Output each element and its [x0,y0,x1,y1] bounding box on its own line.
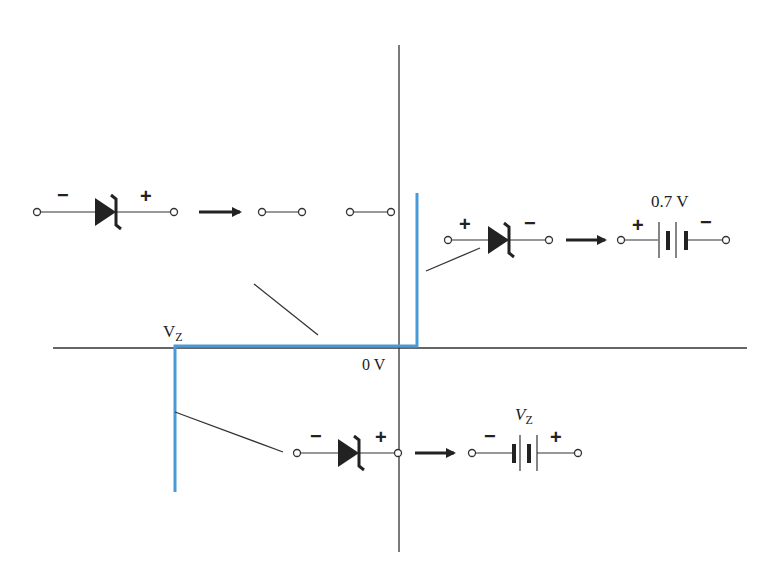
leader-zener-region [175,412,283,452]
minus-sign: − [310,425,322,447]
minus-sign: − [484,425,496,447]
plus-sign: + [459,213,471,235]
zener-characteristic-diagram: VZ 0 V − + [0,0,777,586]
plus-sign: + [375,426,387,448]
minus-sign: − [524,212,536,234]
battery-voltage-label: 0.7 V [651,192,689,211]
minus-sign: − [700,211,712,233]
leader-off-region [254,284,318,335]
zener-diode-symbol [34,195,178,229]
plus-sign: + [550,426,562,448]
plus-sign: + [632,214,644,236]
vz-axis-label: VZ [163,322,183,344]
axes [53,45,747,552]
open-circuit-symbol [259,209,395,216]
minus-sign: − [57,184,69,206]
leader-forward-region [426,248,480,271]
zener-region-model: − + VZ − + [294,405,582,471]
forward-region-model: + − 0.7 V + − [445,192,730,258]
off-region-model: − + [34,184,395,229]
plus-sign: + [140,185,152,207]
battery-voltage-label: VZ [515,405,533,427]
origin-label: 0 V [362,356,386,373]
